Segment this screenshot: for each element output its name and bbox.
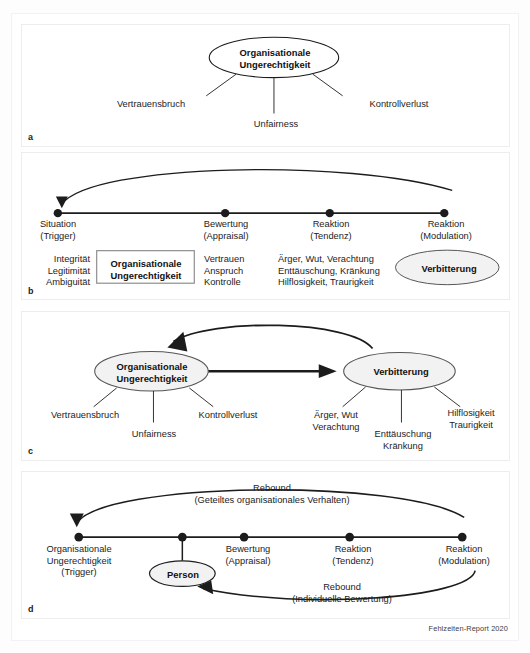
column-reaktion-attributes: Ärger, Wut, Verachtung Enttäuschung, Krä… (278, 254, 380, 289)
timeline-label-reaktion-modulation: Reaktion(Modulation) (420, 219, 472, 242)
panel-b: Situation(Trigger) Bewertung(Appraisal) … (21, 152, 510, 300)
leaf-unfairness: Unfairness (132, 429, 176, 441)
node-organisationale-ungerechtigkeit: Organisationale Ungerechtigkeit (240, 47, 311, 70)
timeline-label-reaktion-modulation-line1: Reaktion (428, 219, 465, 229)
panel-d-letter: d (28, 604, 34, 614)
node-verbitterung: Verbitterung (373, 366, 428, 378)
box-organisationale-ungerechtigkeit: Organisationale Ungerechtigkeit (111, 258, 182, 281)
ellipse-verbitterung: Verbitterung (421, 263, 476, 275)
rebound-bottom-label: Rebound(Individuelle Bewertung) (292, 582, 392, 605)
timeline-label-bewertung-line1: Bewertung (226, 544, 270, 554)
figure-root: Organisationale Ungerechtigkeit Vertraue… (0, 0, 530, 653)
leaf-unfairness: Unfairness (254, 119, 298, 131)
timeline-dot-5 (458, 533, 467, 542)
timeline-dot-4 (440, 209, 448, 217)
return-arrowhead (167, 332, 187, 352)
figure-footer-credit: Fehlzeiten-Report 2020 (429, 624, 508, 633)
timeline-label-ou-line3: (Trigger) (61, 567, 96, 577)
timeline-label-reaktion-tendenz: Reaktion(Tendenz) (310, 219, 351, 242)
node-person: Person (167, 569, 199, 581)
timeline-dot-1 (74, 533, 83, 542)
column-trigger-attributes: Integrität Legitimität Ambiguität (38, 254, 90, 289)
panel-c-letter: c (28, 446, 33, 456)
timeline-dot-3 (240, 533, 249, 542)
panel-c-graphics (22, 312, 509, 460)
forward-arrowhead (319, 364, 337, 378)
timeline-label-ou-line1: Organisationale (46, 544, 111, 554)
panel-a-letter: a (28, 132, 33, 142)
timeline-dot-2 (178, 533, 187, 542)
rebound-top-label: Rebound(Geteiltes organisationales Verha… (194, 483, 349, 506)
timeline-dot-1 (54, 209, 62, 217)
timeline-label-reaktion-tendenz: Reaktion(Tendenz) (332, 544, 373, 567)
return-arc (173, 325, 372, 348)
leaf-kontrollverlust: Kontrollverlust (199, 410, 258, 422)
leaf-vertrauensbruch: Vertrauensbruch (51, 410, 119, 422)
leaf-enttaeuschung-kraenkung: Enttäuschung Kränkung (375, 429, 432, 452)
feedback-arc (62, 170, 452, 205)
leaf-kontrollverlust: Kontrollverlust (370, 99, 429, 111)
timeline-label-bewertung: Bewertung(Appraisal) (204, 219, 249, 242)
timeline-label-bewertung-line2: (Appraisal) (204, 231, 249, 241)
timeline-label-situation-line2: (Trigger) (40, 231, 75, 241)
rebound-top-label-line1: Rebound (253, 483, 291, 493)
timeline-label-reaktion-tendenz-line2: (Tendenz) (310, 231, 351, 241)
panel-c: Organisationale Ungerechtigkeit Verbitte… (21, 311, 510, 461)
timeline-dot-2 (221, 209, 229, 217)
timeline-label-situation: Situation(Trigger) (40, 219, 76, 242)
timeline-label-bewertung-line2: (Appraisal) (226, 556, 271, 566)
rebound-top-arrowhead (70, 513, 84, 527)
rebound-bottom-label-line2: (Individuelle Bewertung) (292, 594, 392, 604)
timeline-label-bewertung: Bewertung(Appraisal) (226, 544, 271, 567)
rebound-bottom-arrowhead (197, 581, 213, 595)
rebound-top-label-line2: (Geteiltes organisationales Verhalten) (194, 495, 349, 505)
leaf-aerger-wut-verachtung: Ärger, Wut Verachtung (312, 410, 359, 433)
feedback-arrowhead (56, 196, 68, 208)
timeline-label-reaktion-modulation: Reaktion(Modulation) (438, 544, 490, 567)
timeline-label-reaktion-modulation-line2: (Modulation) (438, 556, 490, 566)
timeline-label-situation-line1: Situation (40, 219, 76, 229)
timeline-label-reaktion-modulation-line1: Reaktion (446, 544, 483, 554)
timeline-label-reaktion-modulation-line2: (Modulation) (420, 231, 472, 241)
timeline-label-ou-line2: Ungerechtigkeit (47, 556, 112, 566)
leaf-hilflosigkeit-traurigkeit: Hilflosigkeit Traurigkeit (447, 408, 494, 431)
timeline-dot-3 (326, 209, 334, 217)
node-organisationale-ungerechtigkeit: Organisationale Ungerechtigkeit (117, 361, 188, 384)
rebound-bottom-label-line1: Rebound (323, 582, 361, 592)
panel-b-letter: b (28, 286, 34, 296)
column-appraisal-attributes: Vertrauen Anspruch Kontrolle (204, 254, 244, 289)
timeline-label-reaktion-tendenz-line1: Reaktion (313, 219, 350, 229)
timeline-dot-4 (345, 533, 354, 542)
panel-d: OrganisationaleUngerechtigkeit(Trigger) … (21, 471, 510, 619)
leaf-vertrauensbruch: Vertrauensbruch (117, 99, 185, 111)
timeline-label-bewertung-line1: Bewertung (204, 219, 248, 229)
panel-a: Organisationale Ungerechtigkeit Vertraue… (21, 24, 510, 147)
timeline-label-organisationale-ungerechtigkeit: OrganisationaleUngerechtigkeit(Trigger) (46, 544, 111, 579)
timeline-label-reaktion-tendenz-line2: (Tendenz) (332, 556, 373, 566)
timeline-label-reaktion-tendenz-line1: Reaktion (335, 544, 372, 554)
